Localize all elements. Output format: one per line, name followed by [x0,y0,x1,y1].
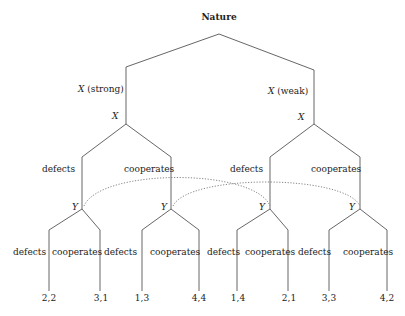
node-y3: Y [259,203,265,212]
node-x-left: X [112,112,118,121]
payoff-leaf-7: 3,3 [322,294,336,303]
action-x-right-defects: defects [230,165,263,174]
action-x-left-defects: defects [42,165,75,174]
action-y4-defects: defects [298,248,331,257]
action-y1-defects: defects [13,248,46,257]
action-x-left-cooperates: cooperates [124,165,174,174]
node-x-right: X [298,113,304,122]
payoff-leaf-8: 4,2 [380,294,394,303]
action-y4-cooperates: cooperates [343,248,393,257]
action-y3-cooperates: cooperates [245,248,295,257]
node-y2: Y [161,203,167,212]
edge-xleft-defects [82,124,126,209]
information-set-cooperates [173,182,360,206]
node-y1: Y [72,203,78,212]
payoff-leaf-4: 4,4 [192,294,206,303]
payoff-leaf-5: 1,4 [231,294,245,303]
branch-weak-label: X (weak) [268,87,308,96]
payoff-leaf-3: 1,3 [135,294,149,303]
payoff-leaf-6: 2,1 [282,294,296,303]
information-set-defects [84,178,270,207]
node-y4: Y [349,203,355,212]
action-y1-cooperates: cooperates [52,248,102,257]
nature-label: Nature [201,13,236,22]
edge-nature-strong [126,34,219,124]
game-tree [0,0,405,316]
payoff-leaf-2: 3,1 [94,294,108,303]
payoff-leaf-1: 2,2 [42,294,56,303]
edge-nature-weak [219,34,314,124]
action-y3-defects: defects [207,248,240,257]
action-x-right-cooperates: cooperates [311,165,361,174]
action-y2-cooperates: cooperates [150,248,200,257]
action-y2-defects: defects [104,248,137,257]
branch-strong-label: X (strong) [78,85,124,94]
edge-xright-defects [270,124,314,209]
